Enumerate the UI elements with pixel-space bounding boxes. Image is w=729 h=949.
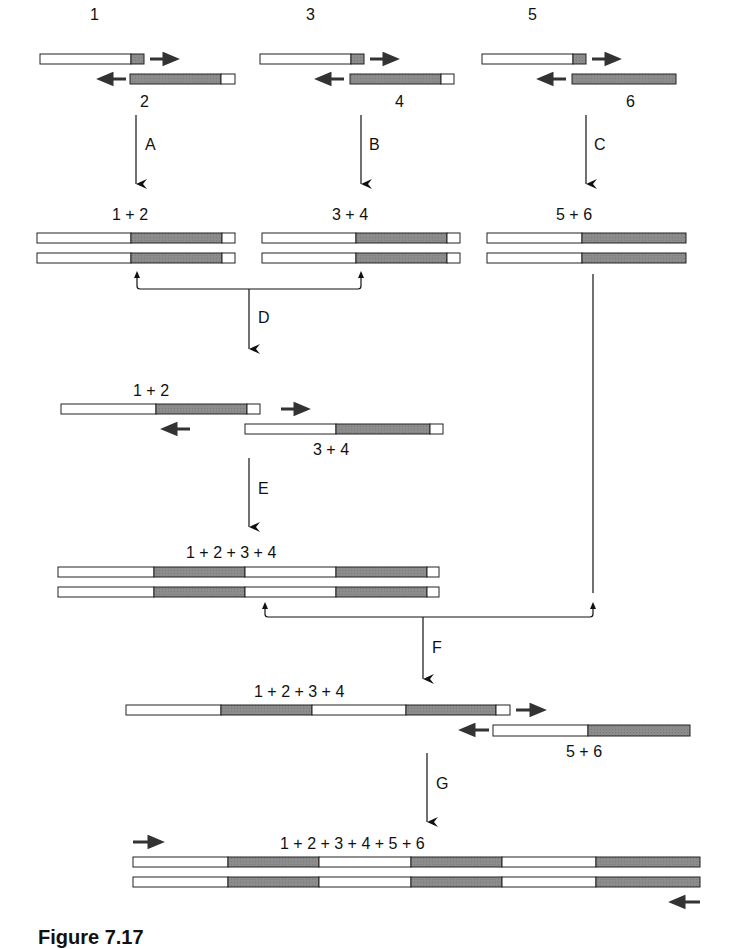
arrow-right-icon xyxy=(281,404,307,414)
product-full: 1 + 2 + 3 + 4 + 5 + 6 xyxy=(133,835,700,907)
pair-5-6: 5 6 xyxy=(482,6,676,110)
arrow-right-icon xyxy=(370,54,396,64)
pair-3-4: 3 4 xyxy=(260,6,454,110)
step-label-f: F xyxy=(432,639,442,656)
fragment-label-4: 4 xyxy=(395,93,404,110)
step-g-arrow: G xyxy=(427,753,448,822)
overlap-label-1-2: 1 + 2 xyxy=(133,382,169,399)
step-label-e: E xyxy=(258,480,269,497)
overlap-label-3-4: 3 + 4 xyxy=(313,441,349,458)
step-label-d: D xyxy=(258,309,270,326)
product-5-6: 5 + 6 xyxy=(487,206,686,263)
arrow-left-icon xyxy=(100,74,126,84)
step-c-arrow: C xyxy=(586,115,606,184)
arrow-right-icon xyxy=(133,837,161,847)
fragment-label-3: 3 xyxy=(306,6,315,23)
product-label-full: 1 + 2 + 3 + 4 + 5 + 6 xyxy=(280,835,425,852)
arrow-left-icon xyxy=(672,897,700,907)
arrow-right-icon xyxy=(592,54,618,64)
fragment-label-5: 5 xyxy=(528,6,537,23)
arrow-left-icon xyxy=(164,424,190,434)
overlap-12-34: 1 + 2 3 + 4 xyxy=(61,382,443,458)
product-label-5-6: 5 + 6 xyxy=(556,206,592,223)
overlap-label-1-2-3-4: 1 + 2 + 3 + 4 xyxy=(254,683,344,700)
arrow-left-icon xyxy=(540,74,566,84)
overlap-1234-56: 1 + 2 + 3 + 4 5 + 6 xyxy=(126,683,690,760)
step-e-arrow: E xyxy=(249,458,269,527)
step-d-bracket: D xyxy=(134,271,364,349)
step-label-a: A xyxy=(145,136,156,153)
fragment-label-1: 1 xyxy=(90,6,99,23)
pair-1-2: 1 2 xyxy=(40,6,235,110)
product-1-2: 1 + 2 xyxy=(37,206,235,263)
figure-caption: Figure 7.17 xyxy=(38,926,144,949)
product-label-3-4: 3 + 4 xyxy=(332,206,368,223)
product-1-2-3-4: 1 + 2 + 3 + 4 xyxy=(58,544,439,597)
product-label-1-2-3-4: 1 + 2 + 3 + 4 xyxy=(186,544,276,561)
step-label-g: G xyxy=(436,775,448,792)
arrow-left-icon xyxy=(318,74,344,84)
step-f-bracket: F xyxy=(262,602,596,679)
product-3-4: 3 + 4 xyxy=(262,206,460,263)
step-label-b: B xyxy=(369,136,380,153)
fragment-label-2: 2 xyxy=(140,93,149,110)
step-a-arrow: A xyxy=(136,115,156,184)
product-label-1-2: 1 + 2 xyxy=(112,206,148,223)
step-label-c: C xyxy=(594,136,606,153)
overlap-label-5-6: 5 + 6 xyxy=(566,743,602,760)
fragment-label-6: 6 xyxy=(626,93,635,110)
arrow-right-icon xyxy=(516,705,543,715)
arrow-left-icon xyxy=(462,725,489,735)
step-b-arrow: B xyxy=(361,115,380,184)
arrow-right-icon xyxy=(150,54,176,64)
